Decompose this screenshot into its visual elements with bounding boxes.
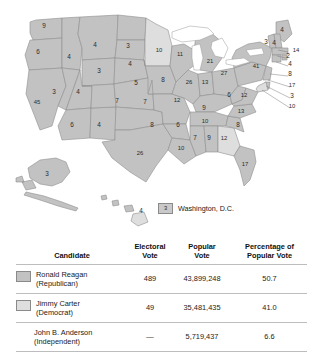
state-ev-label-MS: 7 (193, 134, 197, 141)
state-ev-label-NY: 41 (253, 63, 260, 69)
state-HI-maui (124, 205, 134, 212)
state-ev-label-WA: 9 (42, 22, 46, 29)
results-header-row: Candidate Electoral Vote Popular Vote Pe… (16, 243, 307, 265)
callout-leader-line-5 (266, 86, 290, 98)
state-ev-label-MO: 12 (174, 97, 181, 103)
state-ev-label-WI: 11 (177, 51, 183, 57)
cell-percentage: 6.6 (232, 323, 307, 352)
table-row: Jimmy Carter(Democrat)4935,481,43541.0 (16, 294, 307, 323)
candidate-color-key (16, 271, 31, 282)
cell-popular-vote: 5,719,437 (172, 323, 232, 352)
header-percentage: Percentage of Popular Vote (232, 243, 307, 265)
state-AZ (58, 108, 91, 140)
candidate-color-key (16, 300, 31, 311)
state-ev-label-IN: 13 (202, 79, 209, 85)
table-row: Ronald Reagan(Republican)48943,899,24850… (16, 265, 307, 294)
cell-electoral-vote: 49 (128, 294, 172, 323)
candidate-party: (Democrat) (36, 308, 80, 317)
callout-leader-line-3 (270, 74, 288, 76)
state-ev-label-UT: 4 (76, 88, 80, 95)
header-percentage-line2: Popular Vote (247, 251, 292, 260)
state-ev-label-VA: 12 (241, 92, 248, 98)
header-popular-vote: Popular Vote (172, 243, 232, 265)
state-ev-label-OK: 8 (150, 121, 154, 128)
state-ev-label-TN: 10 (202, 118, 209, 124)
state-ev-label-RI: 2 (286, 52, 290, 59)
state-HI-oahu (112, 200, 119, 206)
cell-popular-vote: 43,899,248 (172, 265, 232, 294)
state-ev-label-ID: 4 (67, 53, 71, 60)
state-AK (16, 158, 70, 190)
state-ev-label-ND: 3 (126, 42, 130, 49)
state-ev-label-ME: 4 (280, 26, 284, 33)
candidate-party: (Independent) (34, 337, 92, 346)
state-ev-label-AL: 9 (207, 134, 211, 141)
candidate-wrapper: Ronald Reagan(Republican) (16, 270, 128, 288)
state-ev-label-MD: 10 (289, 103, 296, 109)
cell-percentage: 41.0 (232, 294, 307, 323)
state-ev-label-AZ: 6 (70, 121, 74, 128)
state-ev-label-CO: 7 (115, 97, 119, 104)
results-table-head: Candidate Electoral Vote Popular Vote Pe… (16, 243, 307, 265)
candidate-name: Jimmy Carter(Democrat) (36, 299, 80, 317)
callout-leader-line-6 (262, 90, 290, 108)
state-ev-label-NE: 5 (134, 79, 138, 86)
state-MD (256, 82, 268, 92)
header-candidate: Candidate (16, 243, 128, 265)
state-ev-label-SD: 4 (128, 60, 132, 67)
dc-legend-label: Washington, D.C. (178, 204, 234, 213)
cell-percentage: 50.7 (232, 265, 307, 294)
candidate-fullname: Ronald Reagan (36, 270, 87, 279)
state-ev-label-KY: 9 (202, 104, 206, 111)
dc-legend-swatch: 3 (158, 203, 173, 214)
candidate-party: (Republican) (36, 279, 87, 288)
results-table: Candidate Electoral Vote Popular Vote Pe… (16, 243, 307, 352)
state-SD (115, 40, 145, 60)
state-ev-label-MT: 4 (93, 41, 97, 48)
state-ev-label-LA: 10 (178, 145, 185, 151)
state-TN (190, 112, 228, 126)
cell-electoral-vote: 489 (128, 265, 172, 294)
candidate-wrapper: Jimmy Carter(Democrat) (16, 299, 128, 317)
state-ev-label-DE: 3 (290, 92, 294, 99)
state-ev-label-FL: 17 (242, 161, 249, 167)
state-CT (272, 55, 281, 62)
state-ev-label-NC: 13 (238, 108, 245, 114)
map-states-layer (16, 15, 292, 226)
header-electoral-vote-line2: Vote (142, 251, 157, 260)
state-ev-label-TX: 26 (137, 150, 144, 156)
candidate-fullname: John B. Anderson (34, 328, 92, 337)
state-ev-label-NJ: 8 (288, 70, 292, 77)
state-ev-label-OH: 27 (221, 70, 228, 76)
candidate-color-key (16, 329, 29, 338)
candidate-fullname: Jimmy Carter (36, 299, 80, 308)
state-WA (30, 18, 62, 40)
state-ev-label-AK: 3 (45, 170, 49, 177)
state-ND (117, 15, 146, 40)
state-NM (90, 107, 116, 140)
electoral-map-figure: .s{stroke:#8e8e8e;stroke-width:.6;stroke… (0, 0, 311, 238)
state-ev-label-CT: 4 (288, 60, 292, 67)
header-electoral-vote: Electoral Vote (128, 243, 172, 265)
state-ev-label-NV: 3 (52, 88, 56, 95)
results-table-body: Ronald Reagan(Republican)48943,899,24850… (16, 265, 307, 352)
state-ev-label-VT: 3 (264, 38, 268, 45)
state-ev-label-MA: 14 (293, 47, 300, 53)
state-ev-label-WV: 6 (227, 91, 231, 98)
cell-candidate: Ronald Reagan(Republican) (16, 265, 128, 294)
candidate-name: Ronald Reagan(Republican) (36, 270, 87, 288)
state-ev-label-PA: 17 (289, 82, 296, 88)
callout-leader-line-4 (268, 80, 290, 87)
state-MN (145, 18, 172, 66)
state-HI-kauai (101, 195, 107, 200)
state-ev-label-IL: 26 (186, 79, 193, 85)
state-ev-label-WY: 3 (97, 67, 101, 74)
cell-electoral-vote: — (128, 323, 172, 352)
callout-leader-line-2 (276, 62, 288, 66)
header-popular-vote-line2: Vote (194, 251, 209, 260)
state-ev-label-OR: 6 (36, 48, 40, 55)
dc-legend: 3 Washington, D.C. (158, 203, 234, 214)
cell-candidate: John B. Anderson(Independent) (16, 323, 128, 352)
state-AL (204, 126, 218, 152)
state-ev-label-MI: 21 (207, 58, 214, 64)
